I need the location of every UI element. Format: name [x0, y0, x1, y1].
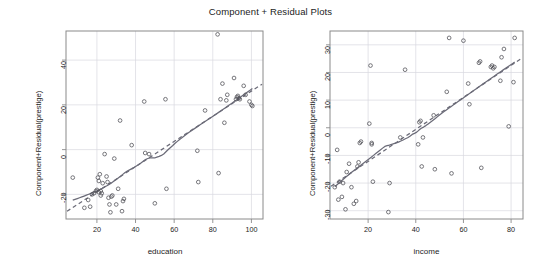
- data-point: [433, 167, 437, 171]
- data-point: [88, 205, 92, 209]
- data-point: [345, 170, 349, 174]
- data-point: [142, 100, 146, 104]
- data-point: [479, 166, 483, 170]
- x-tick-label: 80: [502, 225, 520, 234]
- data-point: [223, 121, 227, 125]
- data-point: [109, 210, 113, 214]
- data-point: [468, 102, 472, 106]
- data-point: [357, 160, 361, 164]
- panel-education: Component+Residual(prestige) education 2…: [0, 0, 290, 272]
- data-point: [420, 165, 424, 169]
- data-point: [500, 55, 504, 59]
- data-point: [242, 84, 246, 88]
- data-point: [232, 76, 236, 80]
- panel-income: Component+Residual(prestige) income 2040…: [290, 0, 541, 272]
- data-point: [336, 198, 340, 202]
- figure-root: Component + Residual Plots Component+Res…: [0, 0, 541, 272]
- data-point: [221, 82, 225, 86]
- tick-marks: [326, 45, 511, 223]
- data-point: [108, 203, 112, 207]
- data-point: [219, 97, 223, 101]
- y-tick-label: 0: [323, 133, 332, 137]
- data-point: [432, 113, 436, 117]
- data-point: [121, 199, 125, 203]
- data-point: [225, 93, 229, 97]
- data-point: [217, 171, 221, 175]
- data-point: [224, 99, 228, 103]
- data-points: [333, 36, 517, 214]
- data-point: [114, 203, 118, 207]
- x-tick-label: 40: [127, 225, 145, 234]
- data-point: [354, 199, 358, 203]
- loess-smooth-line: [73, 89, 253, 201]
- data-point: [335, 148, 339, 152]
- y-tick-label: -10: [323, 154, 332, 164]
- data-point: [203, 109, 207, 113]
- data-point: [445, 90, 449, 94]
- data-point: [447, 36, 451, 40]
- data-point: [502, 47, 506, 51]
- data-point: [130, 143, 134, 147]
- data-point: [112, 157, 116, 161]
- data-point: [101, 181, 105, 185]
- data-point: [196, 180, 200, 184]
- y-tick-label: 20: [59, 106, 68, 114]
- y-tick-label: 30: [323, 46, 332, 54]
- data-point: [398, 136, 402, 140]
- data-point: [83, 206, 87, 210]
- data-point: [416, 143, 420, 147]
- y-tick-label: -30: [323, 209, 332, 219]
- tick-marks: [62, 60, 251, 223]
- data-point: [450, 172, 454, 176]
- data-point: [466, 82, 470, 86]
- y-tick-label: -20: [59, 193, 68, 203]
- data-point: [106, 180, 110, 184]
- data-point: [116, 187, 120, 191]
- data-point: [103, 152, 107, 156]
- data-point: [421, 136, 425, 140]
- data-point: [86, 198, 90, 202]
- data-point: [120, 209, 124, 213]
- x-tick-label: 80: [204, 225, 222, 234]
- y-tick-label: 0: [59, 155, 68, 159]
- x-tick-label: 40: [407, 225, 425, 234]
- x-tick-label: 100: [242, 225, 260, 234]
- data-point: [97, 179, 101, 183]
- data-point: [513, 36, 517, 40]
- y-tick-label: -20: [323, 182, 332, 192]
- data-point: [340, 195, 344, 199]
- data-point: [164, 97, 168, 101]
- x-tick-label: 60: [454, 225, 472, 234]
- data-point: [105, 175, 109, 179]
- data-point: [118, 119, 122, 123]
- x-tick-label: 20: [359, 225, 377, 234]
- data-point: [147, 152, 151, 156]
- data-point: [403, 68, 407, 72]
- data-point: [216, 33, 220, 37]
- data-point: [350, 185, 354, 189]
- y-tick-label: 10: [323, 101, 332, 109]
- data-point: [369, 64, 373, 68]
- x-tick-label: 60: [165, 225, 183, 234]
- data-point: [512, 80, 516, 84]
- y-tick-label: 20: [323, 73, 332, 81]
- loess-smooth-line: [335, 62, 515, 187]
- data-point: [499, 79, 503, 83]
- data-point: [71, 176, 75, 180]
- data-point: [347, 162, 351, 166]
- x-tick-label: 20: [88, 225, 106, 234]
- data-point: [122, 197, 126, 201]
- y-tick-label: 40: [59, 61, 68, 69]
- data-point: [98, 172, 102, 176]
- data-point: [143, 151, 147, 155]
- data-point: [165, 187, 169, 191]
- data-point: [153, 201, 157, 205]
